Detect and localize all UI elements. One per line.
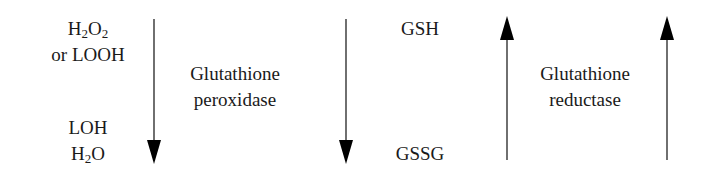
arrow-up-icon [500,16,514,160]
arrow-down-icon [339,19,353,164]
arrows-layer [0,0,712,177]
arrow-down-icon [147,19,161,164]
arrow-up-icon [660,16,674,160]
